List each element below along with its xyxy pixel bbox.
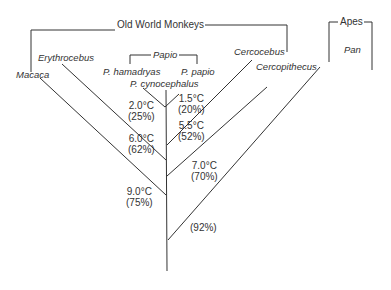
phylogenetic-tree [0,0,391,290]
node-pct: (62%) [128,144,155,155]
node-pct: (52%) [178,131,205,142]
label-erythrocebus: Erythrocebus [38,53,94,63]
label-old-world-monkeys: Old World Monkeys [117,20,204,30]
node-value: 6.0°C (62%) [128,133,155,155]
node-temp: 2.0°C [128,100,155,111]
label-p-hamadryas: P. hamadryas [103,67,160,77]
node-pct: (25%) [128,111,155,122]
label-papio: Papio [153,50,177,60]
label-p-cynocephalus: P. cynocephalus [130,79,199,89]
label-cercopithecus: Cercopithecus [256,62,317,72]
node-value: 5.5°C (52%) [178,120,205,142]
node-pct: (92%) [190,222,217,233]
node-temp: 7.0°C [191,160,218,171]
label-pan: Pan [344,45,361,55]
node-temp: 6.0°C [128,133,155,144]
branch-p-papio [165,94,179,107]
label-cercocebus: Cercocebus [234,47,285,57]
node-value: 7.0°C (70%) [191,160,218,182]
label-macaca: Macaca [16,70,49,80]
node-pct: (20%) [178,104,205,115]
node-temp: 1.5°C [178,93,205,104]
node-value: 2.0°C (25%) [128,100,155,122]
node-temp: 9.0°C [126,186,153,197]
node-pct: (75%) [126,197,153,208]
node-value: (92%) [190,222,217,233]
node-pct: (70%) [191,171,218,182]
node-value: 9.0°C (75%) [126,186,153,208]
label-p-papio: P. papio [181,67,215,77]
node-temp: 5.5°C [178,120,205,131]
node-value: 1.5°C (20%) [178,93,205,115]
label-apes: Apes [340,17,363,27]
trunk [166,90,167,271]
